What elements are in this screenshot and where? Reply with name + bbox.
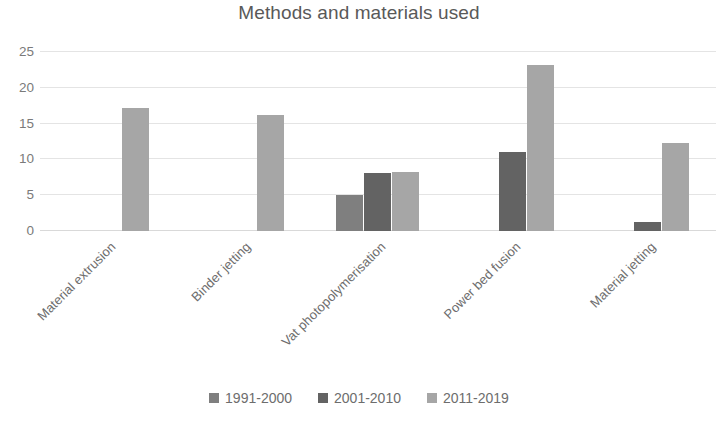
legend-label: 1991-2000 — [225, 390, 292, 406]
legend-item[interactable]: 2001-2010 — [318, 390, 401, 406]
y-tick-label: 25 — [0, 45, 34, 59]
legend-item[interactable]: 2011-2019 — [427, 390, 509, 406]
legend-swatch-icon — [209, 393, 219, 403]
chart-legend: 1991-20002001-20102011-2019 — [0, 390, 718, 406]
x-axis-label-text: Power bed fusion — [441, 239, 524, 322]
y-axis: 0510152025 — [0, 52, 40, 231]
y-tick-label: 0 — [0, 224, 34, 238]
y-tick-label: 15 — [0, 117, 34, 131]
x-axis-category-labels: Material extrusionBinder jettingVat phot… — [40, 231, 716, 361]
x-axis-label-text: Material extrusion — [34, 239, 118, 323]
x-axis-label-text: Binder jetting — [188, 239, 253, 304]
bar-chart: Methods and materials used 0510152025 Ma… — [0, 0, 718, 430]
legend-swatch-icon — [318, 393, 328, 403]
bar — [336, 195, 363, 231]
legend-label: 2001-2010 — [334, 390, 401, 406]
legend-swatch-icon — [427, 393, 437, 403]
x-axis-label-text: Material jetting — [587, 239, 659, 311]
bar — [499, 152, 526, 231]
legend-item[interactable]: 1991-2000 — [209, 390, 292, 406]
y-tick-label: 10 — [0, 152, 34, 166]
y-tick-label: 20 — [0, 81, 34, 95]
legend-label: 2011-2019 — [443, 390, 509, 406]
x-axis-label-text: Vat photopolymerisation — [278, 239, 388, 349]
gridline-25 — [40, 51, 716, 52]
bar — [364, 173, 391, 231]
gridline-20 — [40, 87, 716, 88]
chart-title: Methods and materials used — [0, 2, 718, 24]
y-tick-label: 5 — [0, 188, 34, 202]
